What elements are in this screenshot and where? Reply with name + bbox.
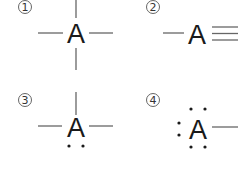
lone-pair-left (177, 121, 180, 136)
panel-number-label: 2 (150, 1, 157, 14)
atom-symbol: A (188, 20, 206, 50)
panel-number-label: 4 (150, 94, 157, 107)
panel-number-label: 3 (22, 94, 29, 107)
panel-1: 1 A (19, 0, 114, 70)
panel-4: 4 A (147, 94, 239, 149)
panel-number-1: 1 (19, 1, 32, 15)
panel-number-label: 1 (22, 1, 29, 14)
atom-symbol: A (189, 115, 207, 145)
lone-pair-bottom (67, 144, 84, 147)
panel-number-2: 2 (147, 1, 160, 15)
lone-pair-bottom (189, 145, 206, 148)
panel-2: 2 A (147, 1, 239, 51)
atom-symbol: A (67, 113, 85, 143)
lone-pair-top (189, 107, 206, 110)
panel-number-3: 3 (19, 94, 32, 108)
atom-symbol: A (67, 19, 85, 49)
triple-bond-right (212, 27, 238, 40)
panel-number-4: 4 (147, 94, 160, 108)
lewis-structures-diagram: 1 A 2 A 3 A (0, 0, 246, 188)
panel-3: 3 A (19, 92, 114, 148)
